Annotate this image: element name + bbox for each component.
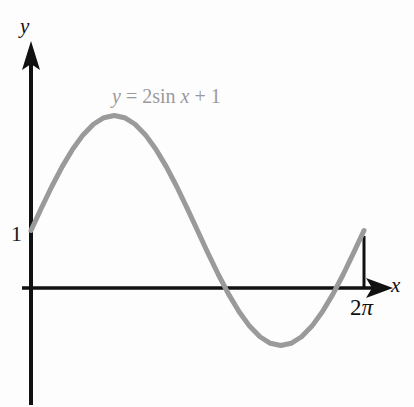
equation-constant-term: + 1 xyxy=(189,85,220,107)
x-endpoint-tick-label: 2π xyxy=(350,296,373,319)
x-endpoint-tick-number: 2 xyxy=(350,295,362,320)
equation-lhs: y xyxy=(112,85,121,107)
y-axis-label: y xyxy=(20,16,29,37)
y-intercept-tick-label: 1 xyxy=(11,223,22,245)
x-axis-label: x xyxy=(391,275,400,296)
plot-canvas xyxy=(0,0,414,407)
sine-curve-path xyxy=(31,116,364,346)
equation-annotation: y = 2sin x + 1 xyxy=(112,86,221,106)
pi-symbol: π xyxy=(362,295,374,320)
sine-curve-figure: y x 1 2π y = 2sin x + 1 xyxy=(0,0,414,407)
equation-coefficient-function: 2sin xyxy=(142,85,180,107)
equation-equals: = xyxy=(121,85,142,107)
